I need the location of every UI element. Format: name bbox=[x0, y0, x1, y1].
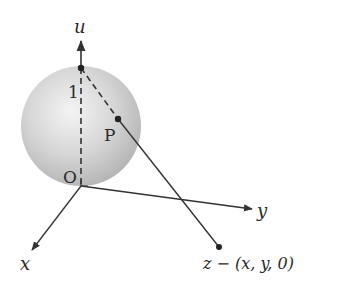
stereographic-projection-diagram: u 1 P O y x z − (x, y, 0) bbox=[0, 0, 341, 296]
north-pole-label: 1 bbox=[68, 82, 79, 102]
y-axis-label: y bbox=[256, 200, 268, 221]
y-axis bbox=[81, 186, 252, 209]
x-axis-label: x bbox=[20, 253, 30, 274]
u-axis-label: u bbox=[74, 16, 86, 37]
x-axis bbox=[32, 186, 81, 250]
point-p bbox=[115, 116, 121, 122]
point-p-label: P bbox=[104, 125, 115, 145]
north-pole-point bbox=[78, 65, 84, 71]
origin-label: O bbox=[63, 167, 77, 187]
projection-line-solid bbox=[118, 119, 219, 247]
point-z bbox=[216, 244, 222, 250]
point-z-label: z − (x, y, 0) bbox=[202, 254, 294, 273]
